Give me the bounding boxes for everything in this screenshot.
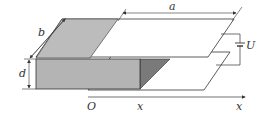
label-x-position: x [137,100,144,113]
x-axis: O x x [87,97,245,113]
label-origin: O [87,100,96,113]
dimension-d: d [19,59,36,89]
capacitor-diagram: b d a U O x x [0,0,268,120]
label-a: a [169,0,176,13]
label-U: U [246,39,256,52]
label-x-axis: x [236,100,243,113]
dimension-a: a [118,0,242,21]
dielectric-front-face [36,59,140,89]
label-b: b [38,26,45,39]
label-d: d [19,67,26,80]
